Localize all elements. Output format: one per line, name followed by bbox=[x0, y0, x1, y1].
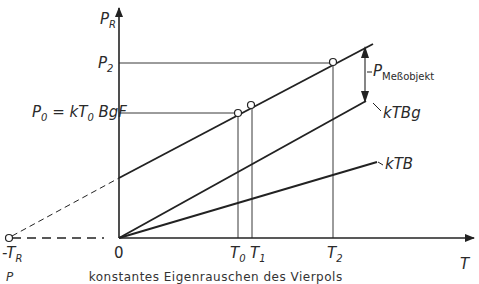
dashed-extrapolation bbox=[12, 178, 119, 236]
ktbg-line bbox=[119, 101, 366, 238]
ktbg-label: kTBg bbox=[383, 104, 421, 122]
y-axis-label: PR bbox=[100, 10, 116, 30]
p0-point bbox=[235, 110, 242, 117]
neg-tr-label: -TR bbox=[2, 244, 22, 264]
messobjekt-label: PMeßobjekt bbox=[373, 62, 434, 82]
x-axis-label: T bbox=[460, 255, 469, 273]
t1-point bbox=[248, 102, 255, 109]
p0-label: P0 = kT0 BgF bbox=[32, 103, 127, 123]
caption: Pkonstantes Eigenrauschen des Vierpols bbox=[6, 270, 343, 284]
t0-label: T0 bbox=[230, 244, 246, 264]
t1-label: T1 bbox=[250, 244, 266, 264]
p2-point bbox=[330, 59, 337, 66]
ktb-label: kTB bbox=[385, 155, 413, 173]
p2-label: P2 bbox=[98, 54, 113, 74]
ktb-line bbox=[119, 162, 377, 238]
origin-label: 0 bbox=[114, 244, 124, 262]
t2-label: T2 bbox=[327, 244, 343, 264]
neg-tr-point bbox=[6, 235, 13, 242]
